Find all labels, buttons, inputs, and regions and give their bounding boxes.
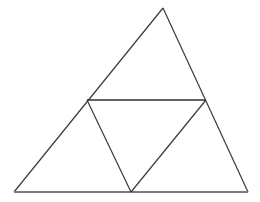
diagram-background: [0, 0, 260, 202]
triangle-diagram: [0, 0, 260, 202]
figure-canvas: [0, 0, 260, 202]
